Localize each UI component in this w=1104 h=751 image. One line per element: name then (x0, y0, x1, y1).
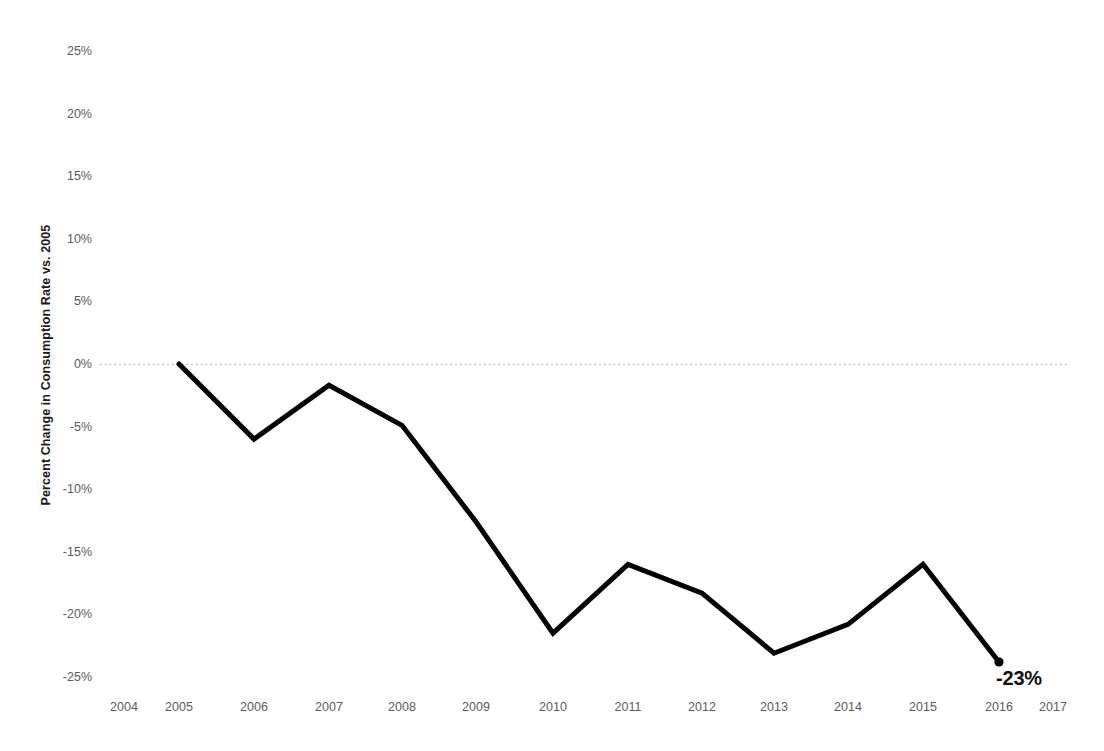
endpoint-value-label: -23% (996, 667, 1042, 690)
plot-area (0, 0, 1104, 751)
endpoint-marker (994, 657, 1003, 666)
data-series-line (179, 364, 999, 662)
chart-container: Percent Change in Consumption Rate vs. 2… (0, 0, 1104, 751)
